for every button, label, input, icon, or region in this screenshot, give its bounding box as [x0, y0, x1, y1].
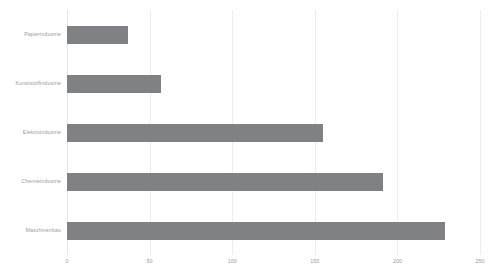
- category-label: Kunststoffindustrie: [16, 81, 61, 86]
- bar-row: Maschinenbau: [67, 206, 480, 255]
- category-label: Maschinenbau: [25, 228, 61, 233]
- x-tick-label-50: 50: [147, 259, 153, 264]
- bar[interactable]: [67, 222, 445, 240]
- bar[interactable]: [67, 173, 383, 191]
- bar-row: Kunststoffindustrie: [67, 59, 480, 108]
- plot-area: PapierindustrieKunststoffindustrieElektr…: [67, 10, 480, 255]
- bar[interactable]: [67, 124, 323, 142]
- bar[interactable]: [67, 75, 161, 93]
- category-label: Elektroindustrie: [23, 130, 61, 135]
- x-tick-label-200: 200: [393, 259, 402, 264]
- x-tick-label-150: 150: [310, 259, 319, 264]
- bar-chart: PapierindustrieKunststoffindustrieElektr…: [0, 0, 495, 275]
- x-tick-label-0: 0: [66, 259, 69, 264]
- bar-row: Elektroindustrie: [67, 108, 480, 157]
- x-tick-label-100: 100: [228, 259, 237, 264]
- bar-row: Papierindustrie: [67, 10, 480, 59]
- bar-row: Chemieindustrie: [67, 157, 480, 206]
- category-label: Chemieindustrie: [21, 179, 61, 184]
- bar[interactable]: [67, 26, 128, 44]
- gridline-250: [480, 10, 481, 255]
- x-tick-label-250: 250: [476, 259, 485, 264]
- category-label: Papierindustrie: [24, 32, 61, 37]
